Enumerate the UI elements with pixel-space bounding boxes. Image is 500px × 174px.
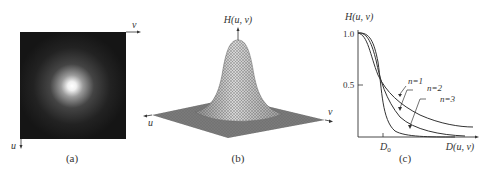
x-axis-label: D(u, v): [445, 141, 475, 153]
label-n3: n=3: [440, 94, 456, 104]
arrow-leader-icon: [398, 94, 402, 97]
axis-label-u-3d: u: [148, 117, 153, 128]
panel-a: v u (a): [0, 0, 150, 174]
xtick-d0: D0: [379, 141, 391, 154]
ytick-05: 0.5: [343, 80, 355, 90]
label-n1: n=1: [408, 76, 423, 86]
panel-c: H(u, v) 1.0 0.5 D0 D(u, v) n=1 n=2 n=3 (…: [330, 0, 500, 174]
axis-label-h: H(u, v): [223, 14, 253, 26]
axis-label-u: u: [11, 140, 16, 151]
label-n2: n=2: [427, 83, 443, 93]
axis-label-v: v: [132, 19, 137, 30]
panel-b: H(u, v) u v (b): [140, 0, 340, 174]
caption-b: (b): [232, 152, 245, 165]
filter-image: [20, 32, 126, 139]
arrow-down-icon: [20, 145, 23, 149]
y-axis-label: H(u, v): [344, 11, 374, 23]
arrow-up-icon: [237, 27, 240, 31]
arrow-left-icon: [143, 115, 147, 118]
caption-c: (c): [399, 152, 412, 165]
arrow-leader-icon: [408, 125, 412, 129]
caption-a: (a): [66, 152, 79, 165]
arrow-right-icon: [475, 136, 479, 139]
ytick-1: 1.0: [343, 29, 355, 39]
arrow-leader-icon: [398, 107, 402, 111]
